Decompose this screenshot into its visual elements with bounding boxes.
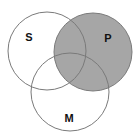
circle-label-s: S xyxy=(25,31,32,43)
circle-label-p: P xyxy=(104,32,111,44)
venn-diagram: S P M xyxy=(0,0,138,138)
circle-label-m: M xyxy=(64,112,73,124)
